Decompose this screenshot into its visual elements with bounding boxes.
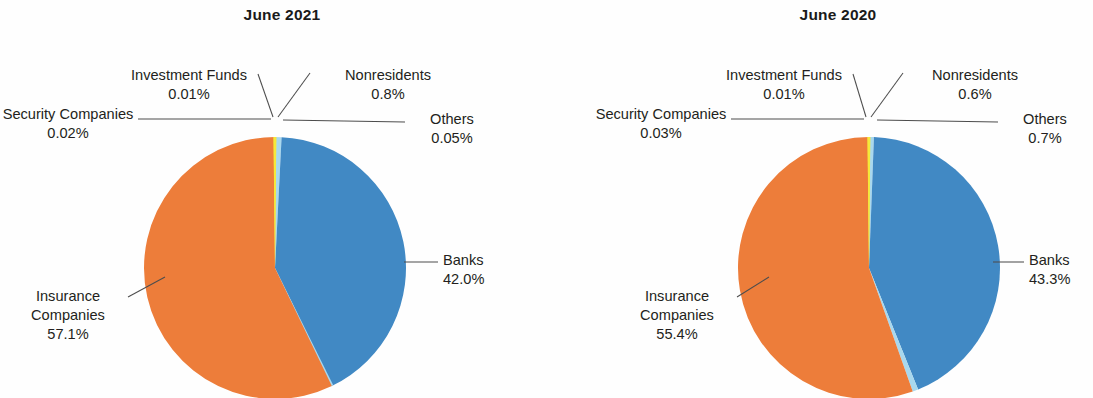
- label-nonresidents-value: 0.8%: [318, 85, 458, 104]
- label-investment-funds-name: Investment Funds: [726, 67, 842, 83]
- label-investment-funds-value: 0.01%: [118, 85, 260, 104]
- label-insurance-companies-left: Insurance Companies 57.1%: [12, 287, 124, 344]
- label-nonresidents-value: 0.6%: [905, 85, 1045, 104]
- label-security-companies-left: Security Companies 0.02%: [2, 105, 134, 143]
- label-banks-value: 43.3%: [1029, 270, 1093, 289]
- pie-chart-figure: June 2021 Investment Funds 0.01% Non: [0, 0, 1093, 398]
- chart-panel-june-2021: June 2021 Investment Funds 0.01% Non: [0, 0, 546, 398]
- label-banks-left: Banks 42.0%: [443, 251, 517, 289]
- label-nonresidents-right: Nonresidents 0.6%: [905, 66, 1045, 104]
- label-banks-value: 42.0%: [443, 270, 517, 289]
- label-insurance-value: 57.1%: [12, 325, 124, 344]
- label-insurance-line2: Companies: [621, 306, 733, 325]
- label-security-companies-value: 0.03%: [595, 124, 727, 143]
- label-security-companies-name: Security Companies: [596, 106, 727, 122]
- label-insurance-line1: Insurance: [12, 287, 124, 306]
- chart-panel-june-2020: June 2020 Investment Funds 0.01% Nonresi…: [547, 0, 1093, 398]
- label-insurance-companies-right: Insurance Companies 55.4%: [621, 287, 733, 344]
- label-security-companies-right: Security Companies 0.03%: [595, 105, 727, 143]
- label-security-companies-value: 0.02%: [2, 124, 134, 143]
- label-others-name: Others: [1023, 111, 1067, 127]
- label-insurance-value: 55.4%: [621, 325, 733, 344]
- label-investment-funds-right: Investment Funds 0.01%: [713, 66, 855, 104]
- label-others-value: 0.7%: [1002, 129, 1088, 148]
- label-others-right: Others 0.7%: [1002, 110, 1088, 148]
- label-investment-funds-value: 0.01%: [713, 85, 855, 104]
- label-security-companies-name: Security Companies: [3, 106, 134, 122]
- label-nonresidents-left: Nonresidents 0.8%: [318, 66, 458, 104]
- label-others-value: 0.05%: [409, 129, 495, 148]
- label-insurance-line2: Companies: [12, 306, 124, 325]
- label-others-name: Others: [430, 111, 474, 127]
- label-investment-funds-name: Investment Funds: [131, 67, 247, 83]
- label-insurance-line1: Insurance: [621, 287, 733, 306]
- label-investment-funds-left: Investment Funds 0.01%: [118, 66, 260, 104]
- label-banks-right: Banks 43.3%: [1029, 251, 1093, 289]
- label-banks-name: Banks: [443, 252, 484, 268]
- label-nonresidents-name: Nonresidents: [345, 67, 431, 83]
- label-banks-name: Banks: [1029, 252, 1070, 268]
- label-others-left: Others 0.05%: [409, 110, 495, 148]
- label-nonresidents-name: Nonresidents: [932, 67, 1018, 83]
